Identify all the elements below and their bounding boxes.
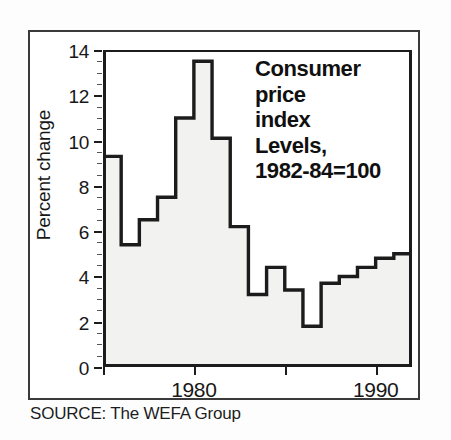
y-minor-tick: [97, 242, 102, 243]
source-note: SOURCE: The WEFA Group: [30, 404, 241, 424]
y-axis-title: Percent change: [33, 110, 55, 240]
y-tick-label-12: 12: [68, 86, 89, 108]
y-tick-2: 2: [94, 322, 102, 324]
y-minor-tick: [97, 84, 102, 85]
y-minor-tick: [97, 299, 102, 300]
y-minor-tick: [97, 356, 102, 357]
y-tick-0: 0: [94, 367, 102, 369]
x-tick-1975: [103, 367, 105, 375]
x-tick-label-1990: 1990: [353, 378, 398, 402]
chart-title-line-3: Levels,: [255, 133, 381, 159]
y-tick-label-2: 2: [79, 312, 89, 334]
x-tick-label-1980: 1980: [171, 378, 216, 402]
y-minor-tick: [97, 265, 102, 266]
chart-title-line-4: 1982-84=100: [255, 158, 381, 184]
y-minor-tick: [97, 107, 102, 108]
y-minor-tick: [97, 197, 102, 198]
y-tick-8: 8: [94, 186, 102, 188]
y-tick-14: 14: [94, 50, 102, 52]
y-tick-6: 6: [94, 231, 102, 233]
y-tick-label-0: 0: [79, 358, 89, 380]
y-minor-tick: [97, 61, 102, 62]
y-minor-tick: [97, 118, 102, 119]
chart-title: ConsumerpriceindexLevels,1982-84=100: [255, 56, 381, 184]
chart-title-line-2: index: [255, 107, 381, 133]
chart-title-line-0: Consumer: [255, 56, 381, 82]
y-tick-4: 4: [94, 276, 102, 278]
y-minor-tick: [97, 152, 102, 153]
x-tick-1985: [285, 367, 287, 375]
y-minor-tick: [97, 254, 102, 255]
y-tick-10: 10: [94, 141, 102, 143]
y-minor-tick: [97, 310, 102, 311]
y-tick-12: 12: [94, 95, 102, 97]
x-tick-1980: [194, 367, 196, 375]
y-minor-tick: [97, 209, 102, 210]
y-minor-tick: [97, 344, 102, 345]
x-tick-1990: [376, 367, 378, 375]
y-tick-label-8: 8: [79, 176, 89, 198]
y-minor-tick: [97, 163, 102, 164]
cpi-chart-figure: Percent change 02468101214 19801990 Cons…: [0, 0, 451, 440]
y-minor-tick: [97, 333, 102, 334]
y-tick-label-6: 6: [79, 222, 89, 244]
y-minor-tick: [97, 175, 102, 176]
y-tick-label-4: 4: [79, 267, 89, 289]
chart-title-line-1: price: [255, 82, 381, 108]
y-minor-tick: [97, 220, 102, 221]
y-minor-tick: [97, 288, 102, 289]
y-minor-tick: [97, 73, 102, 74]
y-tick-label-10: 10: [68, 131, 89, 153]
y-minor-tick: [97, 129, 102, 130]
y-tick-label-14: 14: [68, 41, 89, 63]
